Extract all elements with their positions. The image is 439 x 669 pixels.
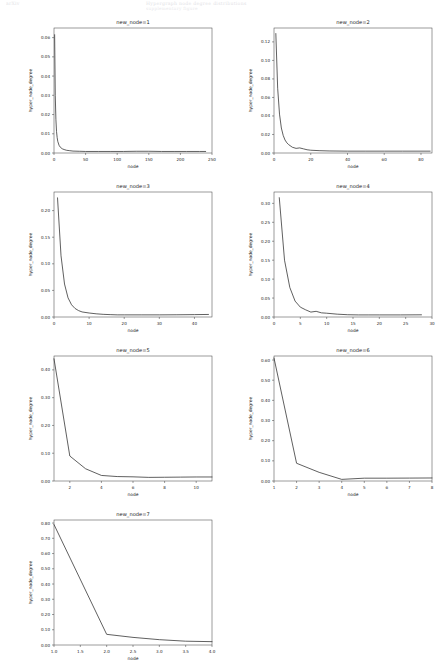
y-axis-label: hyper_node_degree <box>28 233 34 277</box>
x-tick-label: 25 <box>403 321 409 326</box>
x-tick-label: 150 <box>145 157 153 162</box>
y-tick-label: 0.40 <box>261 398 271 403</box>
y-tick-label: 0.20 <box>41 612 51 617</box>
y-tick-label: 0.03 <box>41 93 51 98</box>
x-tick-label: 2 <box>295 485 298 490</box>
panel-title: new_node=6 <box>336 347 369 354</box>
x-axis-label: node <box>128 492 139 497</box>
x-tick-label: 4 <box>340 485 343 490</box>
y-tick-label: 0.02 <box>261 132 271 137</box>
y-tick-label: 0.20 <box>261 239 271 244</box>
header-sub-text: supplementary figure <box>146 6 198 11</box>
x-tick-label: 6 <box>386 485 389 490</box>
x-tick-label: 0 <box>53 157 56 162</box>
y-tick-label: 0.06 <box>41 35 51 40</box>
x-tick-label: 80 <box>418 157 424 162</box>
x-axis-label: node <box>128 164 139 169</box>
x-tick-label: 0 <box>273 157 276 162</box>
x-tick-label: 20 <box>377 321 383 326</box>
y-tick-label: 0.40 <box>41 367 51 372</box>
plot-frame <box>54 192 212 317</box>
x-axis-label: node <box>128 328 139 333</box>
y-axis-label: hyper_node_degree <box>28 561 34 605</box>
plot-frame <box>274 28 432 153</box>
plot-frame <box>274 192 432 317</box>
x-tick-label: 250 <box>208 157 216 162</box>
y-tick-label: 0.80 <box>41 521 51 526</box>
y-tick-label: 0.40 <box>41 582 51 587</box>
data-series-line <box>58 198 209 315</box>
x-tick-label: 50 <box>83 157 89 162</box>
y-tick-label: 0.30 <box>41 597 51 602</box>
y-tick-label: 0.10 <box>261 458 271 463</box>
document-header: arXiv Hypergraph node degree distributio… <box>6 1 426 12</box>
y-tick-label: 0.06 <box>261 95 271 100</box>
x-tick-label: 30 <box>429 321 435 326</box>
x-axis-label: node <box>348 492 359 497</box>
x-tick-label: 0 <box>273 321 276 326</box>
x-tick-label: 3.5 <box>182 649 189 654</box>
chart-panel-4: new_node=40.000.050.100.150.200.250.3005… <box>222 178 439 343</box>
x-tick-label: 20 <box>122 321 128 326</box>
x-tick-label: 200 <box>176 157 184 162</box>
y-tick-label: 0.70 <box>41 536 51 541</box>
chart-svg: new_node=60.000.100.200.300.400.500.6012… <box>222 342 439 507</box>
x-axis-label: node <box>348 164 359 169</box>
x-axis-label: node <box>348 328 359 333</box>
y-tick-label: 0.50 <box>41 566 51 571</box>
chart-svg: new_node=50.000.100.200.300.40246810node… <box>2 342 222 507</box>
y-tick-label: 0.00 <box>261 479 271 484</box>
chart-svg: new_node=30.000.050.100.150.20010203040n… <box>2 178 222 343</box>
y-axis-label: hyper_node_degree <box>28 397 34 441</box>
chart-panel-6: new_node=60.000.100.200.300.400.500.6012… <box>222 342 439 507</box>
plot-frame <box>54 520 212 645</box>
y-tick-label: 0.00 <box>41 479 51 484</box>
chart-panel-5: new_node=50.000.100.200.300.40246810node… <box>2 342 222 507</box>
x-tick-label: 2.5 <box>130 649 137 654</box>
chart-panel-2: new_node=20.000.020.040.060.080.100.1202… <box>222 14 439 179</box>
plot-frame <box>274 356 432 481</box>
panel-title: new_node=4 <box>336 183 369 190</box>
y-tick-label: 0.10 <box>261 58 271 63</box>
y-tick-label: 0.00 <box>41 643 51 648</box>
chart-panel-1: new_node=10.000.010.020.030.040.050.0605… <box>2 14 222 179</box>
panel-title: new_node=7 <box>116 511 149 518</box>
data-series-line <box>279 198 421 315</box>
x-tick-label: 1 <box>273 485 276 490</box>
x-tick-label: 15 <box>350 321 356 326</box>
chart-svg: new_node=10.000.010.020.030.040.050.0605… <box>2 14 222 179</box>
y-axis-label: hyper_node_degree <box>248 397 254 441</box>
y-tick-label: 0.15 <box>41 235 51 240</box>
y-tick-label: 0.04 <box>261 113 271 118</box>
panel-title: new_node=1 <box>116 19 149 26</box>
panel-title: new_node=5 <box>116 347 149 354</box>
x-tick-label: 5 <box>363 485 366 490</box>
panel-title: new_node=3 <box>116 183 149 190</box>
x-tick-label: 1.0 <box>51 649 58 654</box>
data-series-line <box>54 359 212 478</box>
x-tick-label: 3 <box>318 485 321 490</box>
plot-frame <box>54 28 212 153</box>
x-tick-label: 10 <box>87 321 93 326</box>
y-tick-label: 0.15 <box>261 258 271 263</box>
panel-title: new_node=2 <box>336 19 369 26</box>
y-tick-label: 0.12 <box>261 39 271 44</box>
x-tick-label: 60 <box>382 157 388 162</box>
y-tick-label: 0.08 <box>261 76 271 81</box>
x-tick-label: 20 <box>308 157 314 162</box>
y-tick-label: 0.02 <box>41 112 51 117</box>
x-tick-label: 30 <box>157 321 163 326</box>
chart-grid: new_node=10.000.010.020.030.040.050.0605… <box>0 14 439 669</box>
data-series-line <box>274 358 432 479</box>
y-tick-label: 0.20 <box>261 438 271 443</box>
x-tick-label: 7 <box>408 485 411 490</box>
y-tick-label: 0.10 <box>41 451 51 456</box>
y-tick-label: 0.00 <box>261 151 271 156</box>
x-tick-label: 4 <box>100 485 103 490</box>
x-tick-label: 2 <box>68 485 71 490</box>
y-tick-label: 0.25 <box>261 220 271 225</box>
y-tick-label: 0.30 <box>261 201 271 206</box>
y-axis-label: hyper_node_degree <box>248 69 254 113</box>
figure-page: arXiv Hypergraph node degree distributio… <box>0 0 439 669</box>
y-tick-label: 0.10 <box>41 627 51 632</box>
